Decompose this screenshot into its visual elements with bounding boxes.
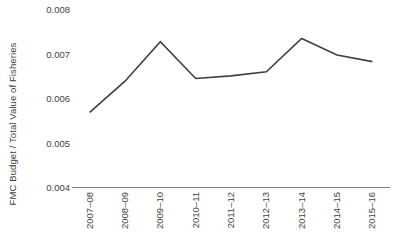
x-tick-label: 2007–08: [83, 192, 97, 248]
y-tick-label: 0.006: [26, 94, 70, 104]
x-tick-label: 2009–10: [153, 192, 167, 248]
x-tick-label: 2011–12: [224, 192, 238, 248]
x-tick-label: 2015–16: [365, 192, 379, 248]
data-line-series: [90, 38, 373, 112]
x-tick-label: 2008–09: [118, 192, 132, 248]
y-tick-label: 0.008: [26, 5, 70, 15]
y-tick-label: 0.005: [26, 139, 70, 149]
plot-area: [72, 10, 390, 188]
x-tick-label: 2010–11: [189, 192, 203, 248]
y-tick-label: 0.007: [26, 50, 70, 60]
x-axis-tick-labels: 2007–082008–092009–102010–112011–122012–…: [0, 192, 406, 248]
x-tick-label: 2014–15: [330, 192, 344, 248]
x-tick-label: 2013–14: [295, 192, 309, 248]
x-tick-label: 2012–13: [259, 192, 273, 248]
x-axis-line: [72, 187, 390, 188]
line-chart: FMC Budget / Total Value of Fisheries 0.…: [0, 0, 406, 248]
